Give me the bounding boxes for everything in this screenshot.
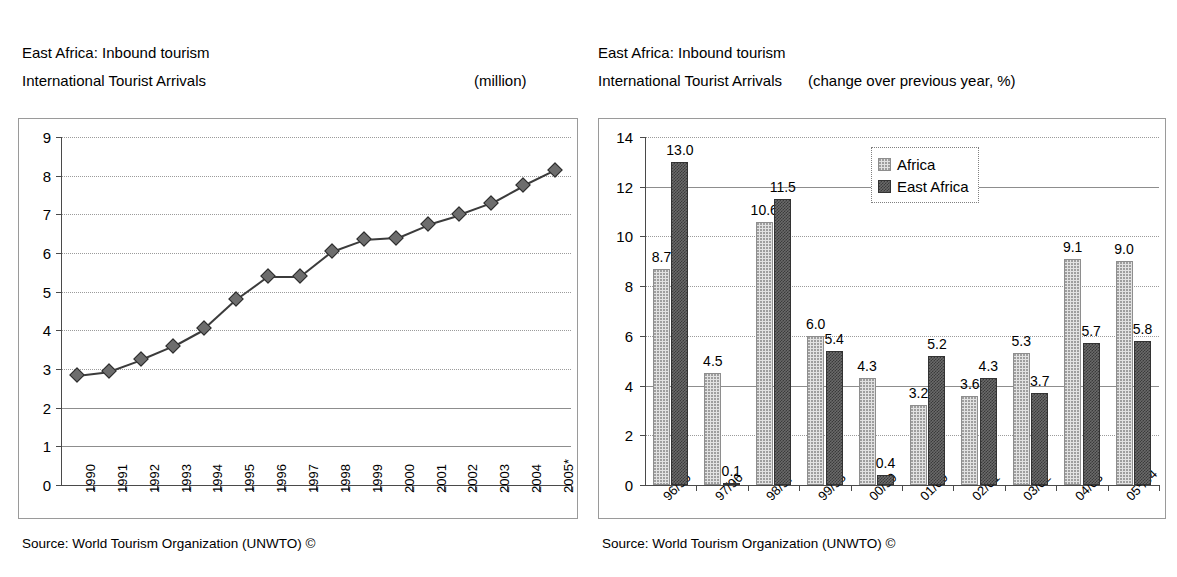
left-chart-source: Source: World Tourism Organization (UNWT… [22,536,316,551]
bar-value-label-africa-6: 3.6 [960,376,979,392]
data-point-2002 [452,207,468,223]
y-axis-label-0: 0 [25,477,51,494]
chart-legend: Africa East Africa [871,147,979,203]
x-axis-label-8: 1998 [338,464,353,493]
legend-label-east-africa: East Africa [897,179,969,194]
gridline-y-10 [645,236,1159,237]
y-axis-line [61,137,62,485]
data-point-1993 [165,338,181,354]
y-axis-label-7: 7 [25,206,51,223]
y-axis-label-4: 4 [25,322,51,339]
gridline-y-3 [61,369,571,370]
gridline-y-8 [61,176,571,177]
right-chart-panel: East Africa: Inbound tourism Internation… [588,0,1177,577]
bar-value-label-africa-8: 9.1 [1063,239,1082,255]
bar-east-africa-4 [877,475,894,485]
x-axis-label-1: 1991 [115,464,130,493]
x-tick-2 [799,485,800,491]
y-axis-label-1: 1 [25,438,51,455]
data-point-1991 [101,363,117,379]
left-chart-panel: East Africa: Inbound tourism Internation… [0,0,588,577]
left-chart-title-line1: East Africa: Inbound tourism [22,44,210,61]
gridline-y-9 [61,137,571,138]
bar-africa-5 [910,405,927,485]
y-axis-label-3: 3 [25,361,51,378]
left-chart-title-line2: International Tourist Arrivals [22,72,206,89]
bar-east-africa-9 [1134,341,1151,485]
bar-value-label-east-africa-0: 13.0 [666,142,693,158]
x-axis-label-10: 2000 [402,464,417,493]
bar-value-label-africa-7: 5.3 [1012,333,1031,349]
data-point-2001 [420,216,436,232]
y-axis-label-14: 14 [603,129,633,146]
bar-africa-7 [1013,353,1030,485]
bar-east-africa-8 [1083,343,1100,485]
bar-value-label-africa-0: 8.7 [652,249,671,265]
x-tick-1 [748,485,749,491]
gridline-y-6 [61,253,571,254]
bar-east-africa-2 [774,199,791,485]
bar-value-label-east-africa-4: 0.4 [876,455,895,471]
x-axis-label-5: 1995 [242,464,257,493]
data-point-2003 [484,195,500,211]
legend-label-africa: Africa [897,157,935,172]
x-axis-label-12: 2002 [465,464,480,493]
x-tick-7 [1056,485,1057,491]
gridline-y-2 [61,408,571,409]
bar-east-africa-5 [928,356,945,485]
data-point-2000 [388,230,404,246]
legend-item-east-africa: East Africa [878,175,969,197]
y-axis-label-2: 2 [25,399,51,416]
x-tick-4 [902,485,903,491]
bar-value-label-east-africa-6: 4.3 [979,358,998,374]
bar-value-label-africa-1: 4.5 [703,353,722,369]
bar-value-label-east-africa-7: 3.7 [1030,373,1049,389]
bar-east-africa-3 [826,351,843,485]
left-chart-frame: 0123456789199019911992199319941995199619… [18,118,578,519]
right-chart-unit-label: (change over previous year, %) [808,72,1016,89]
bar-value-label-africa-5: 3.2 [909,385,928,401]
gridline-y-7 [61,214,571,215]
x-axis-label-9: 1999 [370,464,385,493]
bar-africa-8 [1064,259,1081,485]
bar-africa-0 [653,269,670,485]
data-point-1992 [133,352,149,368]
gridline-y-1 [61,446,571,447]
bar-africa-1 [704,373,721,485]
y-axis-label-8: 8 [603,278,633,295]
x-axis-label-11: 2001 [434,464,449,493]
y-axis-label-2: 2 [603,427,633,444]
bar-value-label-east-africa-9: 5.8 [1133,321,1152,337]
x-tick-3 [851,485,852,491]
gridline-y-5 [61,292,571,293]
y-axis-label-6: 6 [603,327,633,344]
bar-east-africa-1 [723,483,740,485]
x-axis-label-15: 2005* [561,459,576,493]
y-axis-line [645,137,646,485]
bar-value-label-africa-9: 9.0 [1114,241,1133,257]
bar-africa-2 [756,222,773,485]
bar-east-africa-0 [671,162,688,485]
x-tick-0 [696,485,697,491]
bar-east-africa-7 [1031,393,1048,485]
bar-value-label-east-africa-5: 5.2 [927,336,946,352]
left-chart-plot-area: 0123456789199019911992199319941995199619… [19,119,577,518]
y-axis-label-10: 10 [603,228,633,245]
legend-swatch-east-africa-icon [878,180,891,193]
x-axis-label-0: 1990 [83,464,98,493]
x-axis-label-7: 1997 [306,464,321,493]
bar-value-label-east-africa-1: 0.1 [722,463,741,479]
legend-swatch-africa-icon [878,158,891,171]
legend-item-africa: Africa [878,153,969,175]
x-tick-6 [1005,485,1006,491]
x-axis-label-13: 2003 [497,464,512,493]
y-axis-label-9: 9 [25,129,51,146]
x-tick-8 [1108,485,1109,491]
x-axis-label-2: 1992 [147,464,162,493]
x-axis-label-14: 2004 [529,464,544,493]
bar-africa-4 [859,378,876,485]
y-axis-label-8: 8 [25,167,51,184]
right-chart-title-line1: East Africa: Inbound tourism [598,44,786,61]
bar-africa-6 [961,396,978,485]
bar-africa-3 [807,336,824,485]
